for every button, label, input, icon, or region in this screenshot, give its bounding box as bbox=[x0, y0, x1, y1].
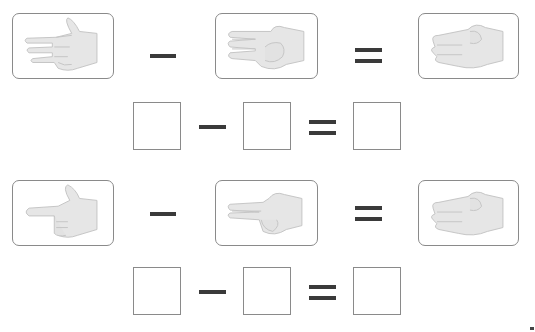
equals-sign-answer-1 bbox=[309, 120, 336, 136]
hand-one-finger-icon bbox=[419, 14, 518, 78]
answer-box-2c[interactable] bbox=[353, 267, 401, 315]
hand-picture-frame-1a: three-fingers-pointing-left bbox=[12, 13, 114, 79]
answer-box-2b[interactable] bbox=[243, 267, 291, 315]
hand-picture-frame-2a: one-finger-pointing-left bbox=[12, 180, 114, 246]
hand-picture-frame-2b: two-fingers-pointing-left bbox=[215, 180, 318, 246]
answer-box-1c[interactable] bbox=[353, 102, 401, 150]
hand-one-finger-icon bbox=[13, 181, 113, 245]
hand-picture-frame-1c: one-finger-pointing-left bbox=[418, 13, 519, 79]
minus-sign-1 bbox=[150, 54, 176, 58]
equals-sign-answer-2 bbox=[309, 285, 336, 301]
hand-picture-frame-2c: one-finger-pointing-left bbox=[418, 180, 519, 246]
minus-sign-2 bbox=[150, 212, 176, 216]
equals-sign-2 bbox=[355, 206, 382, 222]
hand-two-fingers-icon bbox=[216, 14, 317, 78]
hand-three-fingers-icon bbox=[13, 14, 113, 78]
minus-sign-answer-1 bbox=[199, 125, 226, 129]
hand-one-finger-icon bbox=[419, 181, 518, 245]
answer-box-1a[interactable] bbox=[133, 102, 181, 150]
hand-two-fingers-icon bbox=[216, 181, 317, 245]
equals-sign-1 bbox=[355, 48, 382, 64]
minus-sign-answer-2 bbox=[199, 290, 226, 294]
hand-picture-frame-1b: two-fingers-pointing-left bbox=[215, 13, 318, 79]
corner-mark bbox=[530, 327, 534, 330]
answer-box-1b[interactable] bbox=[243, 102, 291, 150]
answer-box-2a[interactable] bbox=[133, 267, 181, 315]
